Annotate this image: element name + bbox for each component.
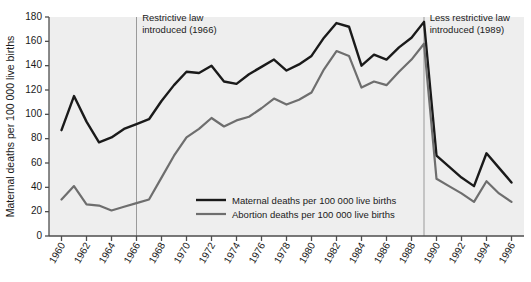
annotation-text-less-restrictive-law: Less restrictive lawintroduced (1989) [430, 12, 510, 35]
maternal-abortion-deaths-line-chart: 020406080100120140160180 196019621964196… [0, 0, 531, 282]
annotation-text-line: introduced (1989) [430, 24, 504, 35]
y-tick-label: 0 [36, 230, 42, 241]
annotation-text-line: Restrictive law [142, 12, 203, 23]
y-tick-label: 160 [25, 35, 42, 46]
y-tick-label: 80 [31, 132, 43, 143]
y-tick-label: 60 [31, 157, 43, 168]
y-tick-label: 100 [25, 108, 42, 119]
annotation-text-line: introduced (1966) [142, 24, 216, 35]
legend-label: Abortion deaths per 100 000 live births [232, 209, 395, 220]
y-tick-label: 40 [31, 181, 43, 192]
y-axis-title: Maternal deaths per 100 000 live births [4, 36, 16, 218]
y-tick-label: 140 [25, 59, 42, 70]
legend-label: Maternal deaths per 100 000 live births [232, 195, 396, 206]
annotation-text-line: Less restrictive law [430, 12, 510, 23]
y-tick-label: 180 [25, 11, 42, 22]
y-tick-label: 20 [31, 205, 43, 216]
y-tick-label: 120 [25, 84, 42, 95]
chart-container: 020406080100120140160180 196019621964196… [0, 0, 531, 282]
